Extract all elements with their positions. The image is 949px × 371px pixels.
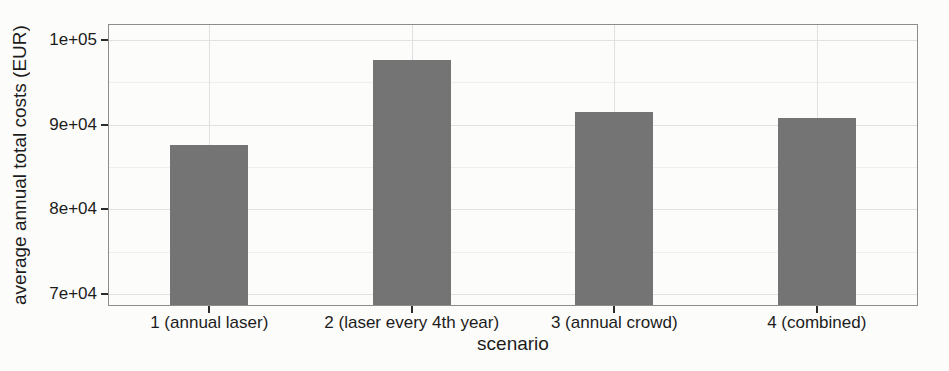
- x-tick-label: 4 (combined): [716, 313, 919, 333]
- y-tick-label: 9e+04: [0, 116, 97, 134]
- y-tick-label: 8e+04: [0, 200, 97, 218]
- x-tick-label: 3 (annual crowd): [513, 313, 716, 333]
- bar: [170, 145, 248, 306]
- x-tick-label: 1 (annual laser): [108, 313, 311, 333]
- y-grid-major: [109, 40, 917, 41]
- y-tick-mark: [101, 293, 108, 295]
- bar: [575, 112, 653, 306]
- bar-chart-figure: average annual total costs (EUR) scenari…: [0, 0, 949, 371]
- x-axis-title: scenario: [108, 333, 918, 355]
- y-axis-title: average annual total costs (EUR): [8, 24, 32, 306]
- x-tick-label: 2 (laser every 4th year): [311, 313, 514, 333]
- bar: [778, 118, 856, 306]
- y-tick-label: 7e+04: [0, 285, 97, 303]
- y-tick-mark: [101, 124, 108, 126]
- x-tick-mark: [816, 306, 818, 313]
- x-tick-mark: [411, 306, 413, 313]
- x-tick-mark: [613, 306, 615, 313]
- bar: [373, 60, 451, 306]
- y-tick-mark: [101, 208, 108, 210]
- y-grid-minor: [109, 82, 917, 83]
- y-tick-mark: [101, 39, 108, 41]
- x-tick-mark: [208, 306, 210, 313]
- y-tick-label: 1e+05: [0, 31, 97, 49]
